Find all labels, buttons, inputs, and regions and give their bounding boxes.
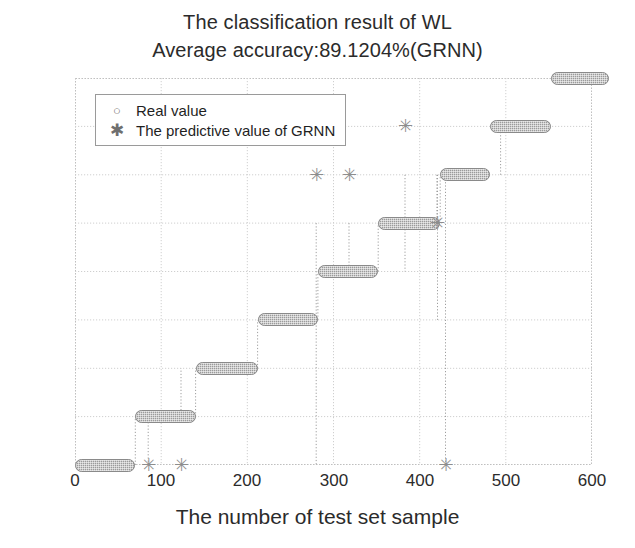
x-tick-500: 500 (476, 472, 536, 489)
x-tick-200: 200 (217, 472, 277, 489)
real-value-band-category-9 (551, 72, 610, 85)
x-tick-600: 600 (562, 472, 622, 489)
x-axis-label: The number of test set sample (0, 505, 635, 529)
real-value-band-category-2 (135, 410, 195, 423)
legend-label-predictive-value: The predictive value of GRNN (130, 122, 335, 139)
asterisk-marker-icon: ✱ (104, 122, 130, 139)
circle-marker-icon: ○ (104, 104, 130, 117)
chart-legend[interactable]: ○ Real value ✱ The predictive value of G… (95, 94, 346, 146)
legend-item-real-value: ○ Real value (104, 100, 335, 120)
chart-title: The classification result of WL (0, 8, 635, 36)
x-tick-0: 0 (45, 472, 105, 489)
chart-title-block: The classification result of WL Average … (0, 8, 635, 64)
plot-area: 9 8 7 6 5 4 3 2 1 0 100 200 300 400 500 … (75, 78, 592, 465)
chart-subtitle: Average accuracy:89.1204%(GRNN) (0, 36, 635, 64)
chart-figure: The classification result of WL Average … (0, 0, 635, 548)
real-value-band-category-3 (196, 362, 258, 375)
real-value-band-category-8 (490, 120, 550, 133)
real-value-band-category-4 (258, 313, 318, 326)
real-value-band-category-1 (75, 459, 135, 472)
x-tick-300: 300 (304, 472, 364, 489)
real-value-band-category-7 (440, 168, 490, 181)
legend-item-predictive-value: ✱ The predictive value of GRNN (104, 120, 335, 140)
real-value-band-category-5 (318, 265, 378, 278)
legend-label-real-value: Real value (130, 102, 207, 119)
